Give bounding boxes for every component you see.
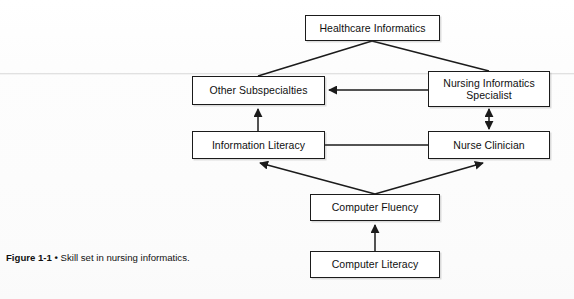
node-information-literacy-label: Information Literacy [208,139,309,152]
node-nursing-informatics-specialist: Nursing Informatics Specialist [428,71,550,107]
edge-hi-to-nursing-informatics-specialist [372,41,489,71]
edge-computer-fluency-to-information-literacy [260,163,375,194]
node-other-subspecialties-label: Other Subspecialties [206,84,312,97]
node-nurse-clinician: Nurse Clinician [428,131,550,159]
node-computer-literacy-label: Computer Literacy [328,258,423,271]
figure-caption-text: Skill set in nursing informatics. [61,252,190,263]
node-nurse-clinician-label: Nurse Clinician [449,139,528,152]
node-computer-fluency: Computer Fluency [310,194,440,221]
figure-caption: Figure 1-1 • Skill set in nursing inform… [6,251,211,264]
node-healthcare-informatics-label: Healthcare Informatics [315,22,429,35]
figure-caption-label: Figure 1-1 [6,252,52,263]
node-computer-fluency-label: Computer Fluency [328,201,423,214]
node-information-literacy: Information Literacy [192,131,325,159]
node-computer-literacy: Computer Literacy [310,251,440,278]
edge-hi-to-other-subspecialties [258,41,372,76]
node-other-subspecialties: Other Subspecialties [192,76,325,105]
node-nursing-informatics-specialist-label: Nursing Informatics Specialist [439,77,538,102]
node-healthcare-informatics: Healthcare Informatics [305,15,440,41]
figure-container: Healthcare Informatics Other Subspecialt… [0,0,574,299]
edge-computer-fluency-to-nurse-clinician [375,163,483,194]
figure-caption-bullet: • [55,252,58,263]
